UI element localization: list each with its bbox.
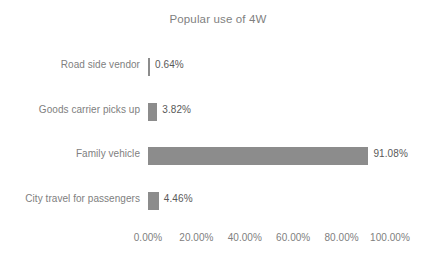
x-tick-40: 40.00% [228, 232, 262, 243]
category-label-family-vehicle: Family vehicle [0, 148, 140, 159]
bar-value-road-side-vendor: 0.64% [155, 59, 184, 70]
bar-row: 4.46% [148, 179, 390, 224]
x-tick-20: 20.00% [179, 232, 213, 243]
x-axis: 0.00% 20.00% 40.00% 60.00% 80.00% 100.00… [148, 232, 390, 248]
bar-chart: Popular use of 4W Road side vendor Goods… [0, 0, 436, 269]
bar-row: 3.82% [148, 90, 390, 135]
bar-goods-carrier-picks-up[interactable] [148, 103, 157, 121]
x-tick-100: 100.00% [370, 232, 410, 243]
plot-area: 0.64% 3.82% 91.08% 4.46% [148, 45, 390, 223]
chart-title: Popular use of 4W [0, 13, 436, 25]
x-tick-80: 80.00% [324, 232, 358, 243]
bar-family-vehicle[interactable] [148, 147, 368, 165]
bar-value-city-travel-for-passengers: 4.46% [164, 193, 193, 204]
bar-city-travel-for-passengers[interactable] [148, 192, 159, 210]
x-tick-60: 60.00% [276, 232, 310, 243]
category-label-city-travel-for-passengers: City travel for passengers [0, 193, 140, 204]
bar-value-goods-carrier-picks-up: 3.82% [162, 104, 191, 115]
bar-row: 0.64% [148, 45, 390, 90]
bar-row: 91.08% [148, 134, 390, 179]
category-label-goods-carrier-picks-up: Goods carrier picks up [0, 104, 140, 115]
bar-value-family-vehicle: 91.08% [373, 148, 408, 159]
bar-road-side-vendor[interactable] [148, 58, 150, 76]
x-tick-0: 0.00% [134, 232, 163, 243]
category-label-road-side-vendor: Road side vendor [0, 59, 140, 70]
